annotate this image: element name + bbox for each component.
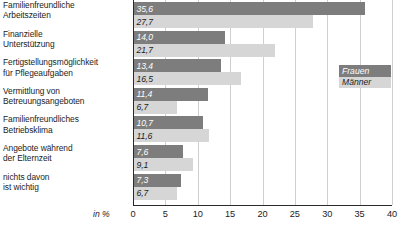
x-tick-label-10: 10 <box>193 209 203 219</box>
category-label-line: nichts davon <box>3 172 127 182</box>
category-label-line: Vermittlung von <box>3 86 127 96</box>
bar-frauen-6: 7,3 <box>134 174 181 187</box>
category-label-line: Finanzielle <box>3 29 127 39</box>
category-label-line: Fertigstellungsmöglichkeit <box>3 57 127 67</box>
bar-value-label: 7,6 <box>134 147 148 157</box>
gridline-30 <box>327 0 328 205</box>
gridline-35 <box>360 0 361 205</box>
category-label-line: Familienfreundliches <box>3 114 127 124</box>
bar-value-label: 11,4 <box>134 89 152 99</box>
category-label-line: Betreuungsangeboten <box>3 96 127 106</box>
category-label-line: ist wichtig <box>3 182 127 192</box>
bar-value-label: 10,7 <box>134 118 153 128</box>
x-axis-line <box>133 205 392 206</box>
bar-männer-1: 21,7 <box>134 44 275 57</box>
gridline-20 <box>263 0 264 205</box>
x-tick-label-0: 0 <box>130 209 135 219</box>
x-tick-label-40: 40 <box>387 209 397 219</box>
bar-value-label: 6,7 <box>134 102 148 112</box>
gridline-25 <box>295 0 296 205</box>
bar-value-label: 35,6 <box>134 4 153 14</box>
category-label-0: FamilienfreundlicheArbeitszeiten <box>3 0 127 21</box>
bar-männer-4: 11,6 <box>134 129 209 142</box>
legend-item-männer[interactable]: Männer <box>339 77 391 89</box>
legend: FrauenMänner <box>339 65 391 88</box>
bar-value-label: 9,1 <box>134 160 148 170</box>
x-tick-label-20: 20 <box>257 209 267 219</box>
bar-value-label: 7,3 <box>134 175 148 185</box>
bar-frauen-2: 13,4 <box>134 59 221 72</box>
category-label-2: Fertigstellungsmöglichkeitfür Pflegeaufg… <box>3 57 127 78</box>
bar-value-label: 6,7 <box>134 188 148 198</box>
category-label-line: Familienfreundliche <box>3 0 127 10</box>
x-tick-label-15: 15 <box>225 209 235 219</box>
category-label-line: Arbeitszeiten <box>3 10 127 20</box>
bar-frauen-3: 11,4 <box>134 88 208 101</box>
bar-männer-5: 9,1 <box>134 158 193 171</box>
bar-frauen-0: 35,6 <box>134 2 365 15</box>
bar-value-label: 21,7 <box>134 45 153 55</box>
legend-item-frauen[interactable]: Frauen <box>339 65 391 77</box>
bar-männer-2: 16,5 <box>134 72 241 85</box>
plot-area: 35,627,714,021,713,416,511,46,710,711,67… <box>133 0 395 205</box>
x-tick-label-25: 25 <box>290 209 300 219</box>
category-label-line: Betriebsklima <box>3 125 127 135</box>
category-label-3: Vermittlung vonBetreuungsangeboten <box>3 86 127 107</box>
category-label-line: Angebote während <box>3 143 127 153</box>
gridline-15 <box>230 0 231 205</box>
category-label-1: FinanzielleUnterstützung <box>3 29 127 50</box>
bar-value-label: 13,4 <box>134 61 153 71</box>
category-label-line: der Elternzeit <box>3 153 127 163</box>
bar-männer-6: 6,7 <box>134 187 177 200</box>
category-label-line: Unterstützung <box>3 39 127 49</box>
legend-label: Männer <box>342 77 371 87</box>
bar-value-label: 14,0 <box>134 32 153 42</box>
category-label-6: nichts davonist wichtig <box>3 172 127 193</box>
bar-männer-0: 27,7 <box>134 15 313 28</box>
x-tick-label-35: 35 <box>355 209 365 219</box>
category-axis-labels: FamilienfreundlicheArbeitszeitenFinanzie… <box>0 0 128 205</box>
bar-frauen-1: 14,0 <box>134 31 225 44</box>
x-tick-label-30: 30 <box>322 209 332 219</box>
category-label-5: Angebote währendder Elternzeit <box>3 143 127 164</box>
legend-label: Frauen <box>342 66 369 76</box>
bar-frauen-5: 7,6 <box>134 145 183 158</box>
bar-männer-3: 6,7 <box>134 101 177 114</box>
bar-value-label: 16,5 <box>134 74 153 84</box>
bar-value-label: 11,6 <box>134 131 152 141</box>
bar-frauen-4: 10,7 <box>134 116 203 129</box>
gridline-40 <box>392 0 393 205</box>
bar-chart: FamilienfreundlicheArbeitszeitenFinanzie… <box>0 0 402 243</box>
bar-value-label: 27,7 <box>134 17 153 27</box>
x-tick-label-5: 5 <box>163 209 168 219</box>
category-label-line: für Pflegeaufgaben <box>3 68 127 78</box>
category-label-4: FamilienfreundlichesBetriebsklima <box>3 114 127 135</box>
x-axis-tick-labels: 0510152025303540 <box>0 209 402 231</box>
